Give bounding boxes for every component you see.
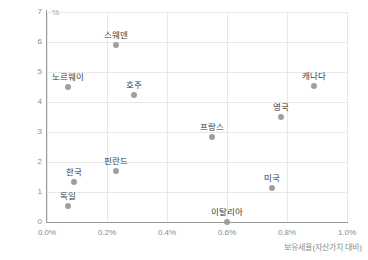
x-axis-line bbox=[46, 222, 348, 223]
data-point[interactable] bbox=[71, 179, 77, 185]
x-axis-tick-label: 0.2% bbox=[82, 228, 132, 237]
data-point-label: 핀란드 bbox=[104, 156, 128, 166]
x-axis-tick-label: 0.8% bbox=[262, 228, 312, 237]
y-axis-tick-label: 7 bbox=[16, 8, 42, 16]
scatter-chart: % 스웨덴노르웨이호주캐나다영국프랑스미국핀란드한국독일이탈리아 0123456… bbox=[0, 0, 368, 260]
y-axis-tick-label: 1 bbox=[16, 188, 42, 196]
gridline-vertical bbox=[47, 12, 48, 222]
data-point-label: 캐나다 bbox=[302, 71, 326, 81]
data-point-label: 호주 bbox=[126, 80, 142, 90]
gridline-horizontal bbox=[47, 42, 347, 43]
gridline-vertical bbox=[287, 12, 288, 222]
data-point[interactable] bbox=[113, 42, 119, 48]
gridline-vertical bbox=[107, 12, 108, 222]
data-point[interactable] bbox=[278, 114, 284, 120]
gridline-horizontal bbox=[47, 162, 347, 163]
data-point[interactable] bbox=[113, 168, 119, 174]
data-point-label: 미국 bbox=[264, 173, 280, 183]
data-point-label: 영국 bbox=[273, 102, 289, 112]
x-axis-title: 보유세율(자산가치 대비) bbox=[284, 243, 362, 252]
data-point-label: 이탈리아 bbox=[211, 207, 243, 217]
y-axis-tick-label: 3 bbox=[16, 128, 42, 136]
x-axis-tick-label: 0.6% bbox=[202, 228, 252, 237]
y-axis-line bbox=[46, 10, 47, 223]
gridline-horizontal bbox=[47, 102, 347, 103]
gridline-vertical bbox=[167, 12, 168, 222]
y-axis-tick-label: 4 bbox=[16, 98, 42, 106]
data-point-label: 한국 bbox=[66, 167, 82, 177]
gridline-horizontal bbox=[47, 192, 347, 193]
y-axis-tick-labels: 01234567 bbox=[14, 0, 42, 260]
data-point[interactable] bbox=[209, 134, 215, 140]
plot-area: 스웨덴노르웨이호주캐나다영국프랑스미국핀란드한국독일이탈리아 bbox=[47, 12, 347, 222]
data-point-label: 프랑스 bbox=[200, 122, 224, 132]
y-axis-tick-label: 5 bbox=[16, 68, 42, 76]
data-point[interactable] bbox=[65, 203, 71, 209]
data-point-label: 독일 bbox=[60, 191, 76, 201]
x-axis-tick-label: 0.4% bbox=[142, 228, 192, 237]
data-point-label: 노르웨이 bbox=[52, 72, 84, 82]
gridline-vertical bbox=[227, 12, 228, 222]
gridline-horizontal bbox=[47, 132, 347, 133]
y-axis-tick-label: 0 bbox=[16, 218, 42, 226]
data-point[interactable] bbox=[311, 83, 317, 89]
data-point[interactable] bbox=[65, 84, 71, 90]
y-axis-tick-label: 6 bbox=[16, 38, 42, 46]
gridline-vertical bbox=[347, 12, 348, 222]
data-point-label: 스웨덴 bbox=[104, 30, 128, 40]
y-axis-tick-label: 2 bbox=[16, 158, 42, 166]
data-point[interactable] bbox=[131, 92, 137, 98]
x-axis-tick-label: 1.0% bbox=[322, 228, 368, 237]
data-point[interactable] bbox=[269, 185, 275, 191]
gridline-horizontal bbox=[47, 12, 347, 13]
x-axis-tick-label: 0.0% bbox=[22, 228, 72, 237]
